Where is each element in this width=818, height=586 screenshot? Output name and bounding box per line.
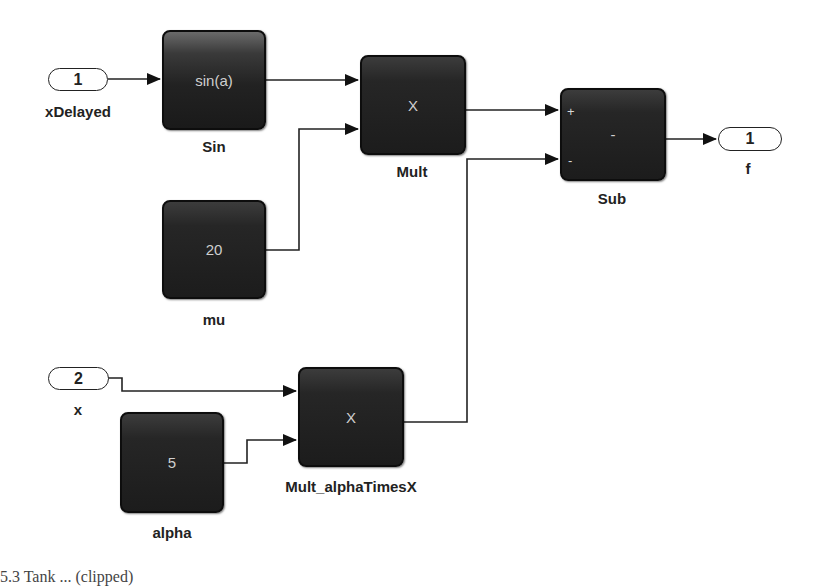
sin-block-label: Sin <box>202 138 225 155</box>
sub-block[interactable]: + - - <box>560 88 666 181</box>
inport-x-label: x <box>74 401 82 418</box>
wire-multalpha-sub <box>403 159 558 422</box>
sub-plus-sign: + <box>567 105 575 118</box>
outport-f-label: f <box>746 160 751 177</box>
mult-alpha-glyph: X <box>346 409 356 426</box>
alpha-block-label: alpha <box>152 524 191 541</box>
mu-constant-block[interactable]: 20 <box>162 200 266 299</box>
inport-number: 2 <box>74 370 83 388</box>
figure-caption: 5.3 Tank ... (clipped) <box>0 568 133 586</box>
mult-alpha-times-x-block[interactable]: X <box>298 367 404 467</box>
sub-minus-sign: - <box>568 154 572 167</box>
wire-mu-mult <box>265 129 358 250</box>
alpha-constant-block[interactable]: 5 <box>120 412 224 513</box>
wire-x-multalpha <box>108 378 296 391</box>
inport-xdelayed-label: xDelayed <box>45 103 111 120</box>
mu-block-label: mu <box>203 311 226 328</box>
mult-block-label: Mult <box>397 163 428 180</box>
wire-alpha-multalpha <box>222 440 296 463</box>
alpha-value: 5 <box>168 454 176 471</box>
outport-number: 1 <box>746 130 755 148</box>
sub-block-glyph: - <box>611 126 616 143</box>
mult-alpha-times-x-label: Mult_alphaTimesX <box>285 478 416 495</box>
sin-block-glyph: sin(a) <box>195 72 233 89</box>
sin-block[interactable]: sin(a) <box>162 30 266 130</box>
inport-x[interactable]: 2 <box>48 367 109 390</box>
sub-block-label: Sub <box>598 190 626 207</box>
mu-value: 20 <box>206 241 223 258</box>
inport-xdelayed[interactable]: 1 <box>48 68 108 91</box>
outport-f[interactable]: 1 <box>718 127 782 151</box>
mult-block-glyph: X <box>408 97 418 114</box>
mult-block[interactable]: X <box>360 55 466 155</box>
inport-number: 1 <box>74 71 83 89</box>
